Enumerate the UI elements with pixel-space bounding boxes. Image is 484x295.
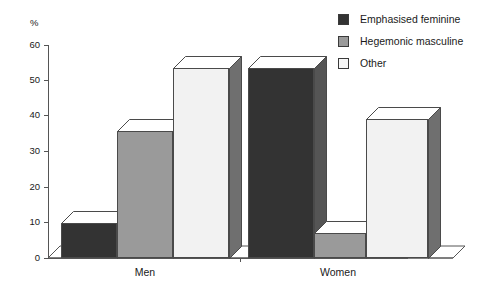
y-tick-40 xyxy=(44,115,48,116)
bar-chart: % 60 50 40 30 20 10 0 Men Women xyxy=(0,0,484,295)
y-axis-line xyxy=(48,45,49,258)
y-tick-label-50: 50 xyxy=(18,75,40,85)
y-tick-10 xyxy=(44,222,48,223)
bar-side-face xyxy=(229,56,242,259)
legend-swatch-icon xyxy=(338,36,349,47)
x-category-label-women: Women xyxy=(308,266,368,278)
x-category-label-men: Men xyxy=(115,266,175,278)
bar-front-face xyxy=(366,119,428,258)
legend-item-label: Hegemonic masculine xyxy=(360,34,463,48)
bar-front-face xyxy=(173,68,229,258)
legend-item-label: Other xyxy=(360,56,386,70)
legend-item-other: Other xyxy=(338,55,480,73)
bar-front-face xyxy=(314,233,366,258)
y-tick-30 xyxy=(44,151,48,152)
y-tick-label-0: 0 xyxy=(18,253,40,263)
legend-swatch-icon xyxy=(338,58,349,69)
bar-men-other xyxy=(173,68,241,258)
y-tick-50 xyxy=(44,80,48,81)
bar-front-face xyxy=(248,68,314,258)
y-tick-label-30: 30 xyxy=(18,146,40,156)
legend-item-label: Emphasised feminine xyxy=(360,12,460,26)
bar-front-face xyxy=(117,131,173,258)
y-axis-unit-label: % xyxy=(30,18,38,28)
bar-front-face xyxy=(61,223,117,258)
bar-women-other xyxy=(366,119,440,258)
y-tick-label-20: 20 xyxy=(18,182,40,192)
legend-item-emphasised-feminine: Emphasised feminine xyxy=(338,11,480,29)
y-tick-label-10: 10 xyxy=(18,217,40,227)
y-tick-60 xyxy=(44,45,48,46)
legend-swatch-icon xyxy=(338,14,349,25)
y-tick-label-60: 60 xyxy=(18,40,40,50)
y-tick-20 xyxy=(44,187,48,188)
y-tick-label-40: 40 xyxy=(18,110,40,120)
chart-legend: Emphasised feminine Hegemonic masculine … xyxy=(338,11,480,77)
x-axis-line xyxy=(48,258,408,259)
bar-side-face xyxy=(428,107,441,259)
legend-item-hegemonic-masculine: Hegemonic masculine xyxy=(338,33,480,51)
